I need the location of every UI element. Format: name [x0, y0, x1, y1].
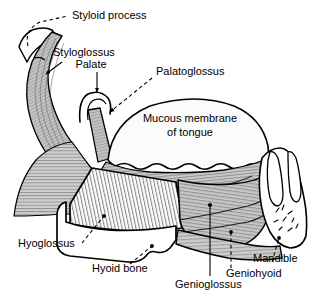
label-palatoglossus: Palatoglossus	[156, 65, 225, 77]
label-mucous-membrane-line1: Mucous membrane	[143, 112, 237, 124]
label-styloglossus: Styloglossus	[53, 46, 115, 58]
label-styloid-process: Styloid process	[72, 9, 147, 21]
label-genioglossus: Genioglossus	[175, 278, 242, 290]
leader-palatoglossus	[110, 78, 152, 112]
label-geniohyoid: Geniohyoid	[226, 267, 282, 279]
anatomy-illustration	[14, 28, 307, 262]
label-mandible: Mandible	[253, 252, 298, 264]
label-hyoglossus: Hyoglossus	[18, 237, 75, 249]
label-mucous-membrane-line2: of tongue	[167, 126, 213, 138]
tooth-root-posterior	[288, 152, 301, 202]
label-palate: Palate	[75, 58, 106, 70]
anatomy-figure: Styloid process Styloglossus Palate Pala…	[0, 0, 310, 298]
label-hyoid-bone: Hyoid bone	[92, 262, 148, 274]
